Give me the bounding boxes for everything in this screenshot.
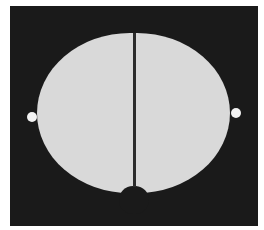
dividing-membrane xyxy=(133,33,136,187)
right-pole-dot xyxy=(231,108,241,118)
left-pole-dot xyxy=(27,112,37,122)
cell-division-diagram xyxy=(0,0,264,230)
